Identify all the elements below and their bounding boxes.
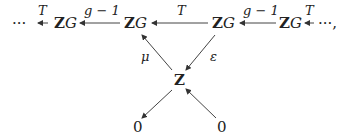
node-zg-1-g: G	[65, 14, 77, 32]
node-zg-4-g: G	[290, 14, 302, 32]
node-zero-left: 0	[133, 120, 143, 135]
right-ellipsis: ···,	[318, 16, 337, 31]
node-zg-4: ZG	[279, 16, 302, 31]
label-g-minus-1-left: g − 1	[84, 4, 120, 17]
node-zero-right: 0	[217, 120, 227, 135]
node-zg-2-g: G	[135, 14, 147, 32]
label-mu: μ	[141, 50, 149, 63]
arrow-z-to-zero	[142, 90, 172, 118]
node-zg-3-g: G	[223, 14, 235, 32]
label-epsilon: ε	[210, 50, 217, 63]
node-zg-2-z: Z	[124, 14, 135, 32]
node-zg-4-z: Z	[279, 14, 290, 32]
arrow-zero-to-z	[186, 89, 216, 118]
node-zg-1: ZG	[54, 16, 77, 31]
node-z-center-label: Z	[174, 71, 185, 89]
node-zg-2: ZG	[124, 16, 147, 31]
node-z-center: Z	[174, 73, 185, 88]
node-zg-3: ZG	[212, 16, 235, 31]
node-zg-3-z: Z	[212, 14, 223, 32]
label-t-right: T	[305, 4, 314, 17]
label-g-minus-1-right: g − 1	[243, 4, 279, 17]
node-zg-1-z: Z	[54, 14, 65, 32]
label-t-left: T	[38, 4, 47, 17]
label-t-middle: T	[177, 4, 186, 17]
left-ellipsis: ···	[12, 16, 26, 31]
